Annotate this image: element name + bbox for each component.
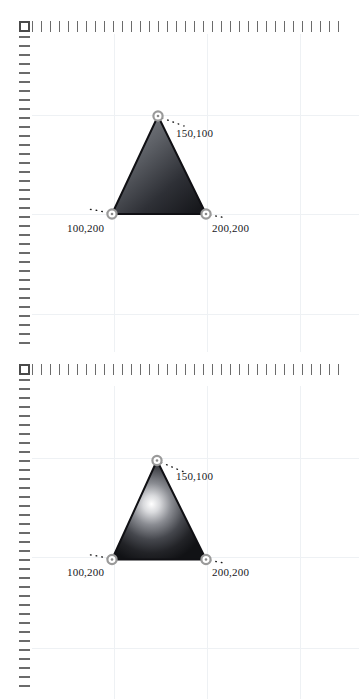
ruler-tick — [19, 469, 30, 471]
ruler-tick — [302, 364, 303, 375]
ruler-tick — [320, 364, 321, 375]
vector-artwork-linear[interactable] — [0, 0, 359, 352]
ruler-tick — [19, 315, 30, 317]
vertex-handle-bottom-right[interactable] — [201, 555, 210, 564]
ruler-tick — [50, 364, 51, 375]
ruler-tick — [19, 36, 30, 38]
ruler-tick — [19, 216, 30, 218]
ruler-tick — [77, 364, 78, 375]
ruler-tick — [221, 364, 222, 375]
ruler-tick — [284, 364, 285, 375]
ruler-tick — [140, 21, 141, 32]
ruler-tick — [95, 364, 96, 375]
linear-gradient-triangle-canvas[interactable]: 150,100 100,200 200,200 — [0, 0, 359, 352]
ruler-tick — [19, 487, 30, 489]
ruler-tick — [19, 288, 30, 290]
ruler-tick — [19, 595, 30, 597]
ruler-tick — [113, 21, 114, 32]
ruler-tick — [19, 189, 30, 191]
vertex-handle-apex[interactable] — [153, 111, 162, 120]
ruler-tick — [19, 568, 30, 570]
ruler-tick — [19, 631, 30, 633]
ruler-tick — [19, 198, 30, 200]
ruler-tick — [19, 424, 30, 426]
ruler-tick — [86, 364, 87, 375]
ruler-tick — [19, 63, 30, 65]
coord-label-apex: 150,100 — [176, 127, 213, 139]
ruler-tick — [19, 523, 30, 525]
horizontal-ruler[interactable] — [32, 364, 347, 376]
ruler-tick — [19, 243, 30, 245]
ruler-tick — [113, 364, 114, 375]
ruler-tick — [176, 364, 177, 375]
ruler-tick — [19, 279, 30, 281]
ruler-tick — [212, 364, 213, 375]
ruler-origin-box[interactable] — [19, 364, 30, 375]
ruler-tick — [19, 685, 30, 687]
ruler-tick — [329, 21, 330, 32]
ruler-tick — [122, 364, 123, 375]
ruler-tick — [329, 364, 330, 375]
ruler-tick — [19, 72, 30, 74]
ruler-tick — [19, 333, 30, 335]
ruler-tick — [203, 364, 204, 375]
ruler-origin-box[interactable] — [19, 21, 30, 32]
ruler-tick — [19, 532, 30, 534]
ruler-tick — [19, 613, 30, 615]
ruler-tick — [338, 21, 339, 32]
vertex-handle-bottom-right[interactable] — [201, 209, 210, 218]
ruler-tick — [311, 364, 312, 375]
ruler-tick — [19, 622, 30, 624]
ruler-tick — [19, 514, 30, 516]
ruler-tick — [32, 364, 33, 375]
ruler-tick — [194, 21, 195, 32]
vertex-handle-bottom-left[interactable] — [107, 209, 116, 218]
ruler-tick — [302, 21, 303, 32]
ruler-tick — [239, 21, 240, 32]
ruler-tick — [122, 21, 123, 32]
ruler-tick — [19, 108, 30, 110]
ruler-tick — [19, 252, 30, 254]
coord-label-apex: 150,100 — [176, 470, 213, 482]
ruler-tick — [19, 379, 30, 381]
horizontal-ruler[interactable] — [32, 21, 347, 33]
ruler-tick — [19, 478, 30, 480]
ruler-tick — [185, 364, 186, 375]
ruler-tick — [131, 364, 132, 375]
ruler-tick — [19, 324, 30, 326]
ruler-tick — [19, 415, 30, 417]
ruler-tick — [104, 364, 105, 375]
radial-gradient-triangle-canvas[interactable]: 150,100 100,200 200,200 — [0, 352, 359, 699]
ruler-tick — [275, 21, 276, 32]
ruler-tick — [266, 364, 267, 375]
vertex-handle-bottom-left[interactable] — [107, 555, 116, 564]
ruler-tick — [19, 559, 30, 561]
ruler-tick — [19, 406, 30, 408]
ruler-tick — [194, 364, 195, 375]
ruler-tick — [19, 261, 30, 263]
ruler-tick — [230, 21, 231, 32]
ruler-tick — [19, 577, 30, 579]
coord-label-bottom-left: 100,200 — [67, 566, 104, 578]
ruler-tick — [59, 364, 60, 375]
ruler-tick — [19, 640, 30, 642]
ruler-tick — [19, 649, 30, 651]
ruler-tick — [19, 505, 30, 507]
ruler-tick — [19, 306, 30, 308]
vertical-ruler[interactable] — [19, 36, 31, 352]
ruler-tick — [338, 364, 339, 375]
vertex-handle-apex[interactable] — [152, 456, 161, 465]
ruler-tick — [19, 162, 30, 164]
ruler-tick — [158, 21, 159, 32]
vertical-ruler[interactable] — [19, 379, 31, 699]
ruler-tick — [19, 496, 30, 498]
ruler-tick — [19, 180, 30, 182]
ruler-tick — [266, 21, 267, 32]
ruler-tick — [221, 21, 222, 32]
leader-line-bottom-right — [210, 215, 227, 218]
ruler-tick — [230, 364, 231, 375]
vector-artwork-radial[interactable] — [0, 352, 359, 699]
ruler-tick — [19, 126, 30, 128]
ruler-tick — [19, 388, 30, 390]
ruler-tick — [19, 550, 30, 552]
